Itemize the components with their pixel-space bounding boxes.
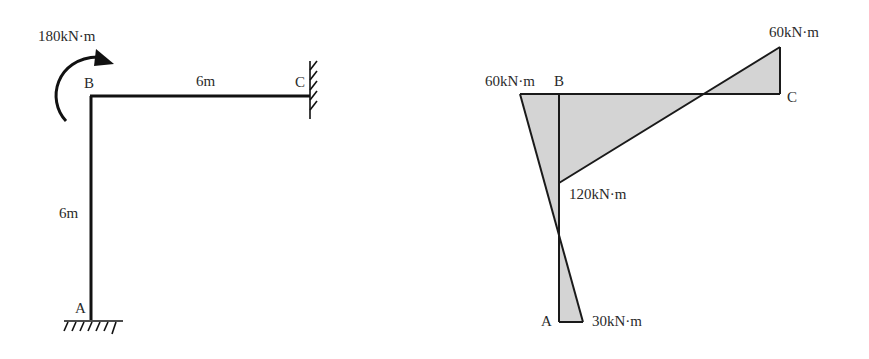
applied-moment-label: 180kN·m bbox=[38, 28, 96, 44]
diagram-canvas: 180kN·m B 6m C 6m A 60kN·m B 60kN·m C 12… bbox=[0, 0, 869, 359]
beam-length-label: 6m bbox=[196, 73, 216, 89]
moment-b-beam-label: 60kN·m bbox=[485, 73, 535, 89]
moment-node-b-label: B bbox=[554, 73, 564, 89]
moment-c-label: 60kN·m bbox=[769, 24, 819, 40]
moment-node-a-label: A bbox=[541, 313, 552, 329]
moment-b-column-label: 120kN·m bbox=[569, 186, 627, 202]
fixed-support-a-icon bbox=[64, 321, 123, 334]
node-b-label: B bbox=[84, 75, 94, 91]
moment-diagram: 60kN·m B 60kN·m C 120kN·m A 30kN·m bbox=[485, 24, 819, 329]
node-c-label: C bbox=[295, 74, 305, 90]
frame-structure: 180kN·m B 6m C 6m A bbox=[38, 28, 317, 334]
moment-a-label: 30kN·m bbox=[592, 313, 642, 329]
moment-node-c-label: C bbox=[787, 89, 797, 105]
column-height-label: 6m bbox=[59, 205, 79, 221]
fixed-support-c-icon bbox=[310, 61, 317, 119]
node-a-label: A bbox=[75, 300, 86, 316]
